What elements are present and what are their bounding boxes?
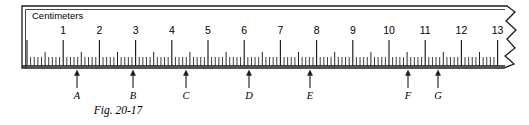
pointer-head-D [246,70,251,76]
pointer-label-E: E [306,90,314,101]
tick-label-12: 12 [456,24,468,36]
pointer-head-B [130,70,135,76]
pointer-label-F: F [404,90,412,101]
pointer-label-B: B [130,90,137,101]
pointer-G [435,70,440,88]
pointer-D [246,70,251,88]
pointer-B [130,70,135,88]
tick-label-2: 2 [96,24,102,36]
tick-label-10: 10 [383,24,395,36]
pointer-label-D: D [244,90,253,101]
ruler-figure-svg: 12345678910111213 Centimeters ABCDEFG Fi… [0,0,529,125]
pointer-C [183,70,188,88]
tick-label-7: 7 [277,24,283,36]
tick-label-11: 11 [420,24,431,36]
tick-label-4: 4 [169,24,175,36]
pointer-E [307,70,312,88]
pointer-arrows [74,70,440,88]
pointer-label-A: A [73,90,81,101]
pointer-label-G: G [434,90,442,101]
pointer-head-C [183,70,188,76]
figure-container: 12345678910111213 Centimeters ABCDEFG Fi… [0,0,529,125]
pointer-head-G [435,70,440,76]
pointer-label-C: C [182,90,190,101]
pointer-head-E [307,70,312,76]
tick-label-1: 1 [60,24,66,36]
tick-label-3: 3 [133,24,139,36]
tick-label-13: 13 [492,24,504,36]
pointer-F [405,70,410,88]
pointer-labels: ABCDEFG [73,90,442,101]
tick-label-6: 6 [241,24,247,36]
ruler-unit-label: Centimeters [32,10,83,21]
tick-label-8: 8 [314,24,320,36]
pointer-head-F [405,70,410,76]
tick-label-9: 9 [350,24,356,36]
pointer-A [74,70,79,88]
pointer-head-A [74,70,79,76]
figure-caption: Fig. 20-17 [93,104,144,117]
tick-label-5: 5 [205,24,211,36]
